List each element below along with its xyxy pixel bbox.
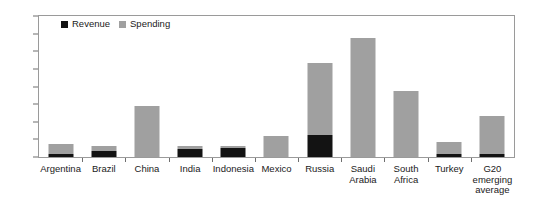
bar-group[interactable] [471,16,514,157]
bar-segment-spending[interactable] [264,136,289,157]
legend-entry-revenue[interactable]: Revenue [61,19,110,29]
x-axis-tick-label: Turkey [435,164,464,175]
bar-group[interactable] [169,16,212,157]
bar-stack[interactable] [91,146,116,157]
x-axis-tick-mark [428,158,429,162]
y-axis-tick-mark [33,104,38,105]
bar-segment-spending[interactable] [480,116,505,153]
x-axis-tick-mark [82,158,83,162]
bar-group[interactable] [82,16,125,157]
bar-segment-spending[interactable] [48,144,73,154]
bar-group[interactable] [428,16,471,157]
x-axis-tick-label: China [135,164,160,175]
legend-label: Revenue [72,19,110,29]
bar-group[interactable] [298,16,341,157]
bar-segment-spending[interactable] [437,142,462,154]
x-axis-tick-mark [384,158,385,162]
x-axis-tick-mark [125,158,126,162]
x-axis-tick-label: Mexico [261,164,291,175]
x-axis-tick-label: Russia [305,164,334,175]
x-axis-tick-label: G20 emerging average [473,164,513,196]
legend-entry-spending[interactable]: Spending [119,19,170,29]
bar-stack[interactable] [221,146,246,157]
bar-stack[interactable] [48,144,73,157]
bar-group[interactable] [341,16,384,157]
bar-segment-revenue[interactable] [48,154,73,157]
bar-segment-revenue[interactable] [178,149,203,157]
bar-group[interactable] [125,16,168,157]
bar-stack[interactable] [134,106,159,157]
x-axis-tick-mark [212,158,213,162]
bar-stack[interactable] [178,146,203,157]
y-axis: 0246810121416 [0,0,38,176]
bar-stack[interactable] [394,91,419,157]
x-axis-tick-mark [298,158,299,162]
bar-segment-spending[interactable] [307,63,332,135]
bar-group[interactable] [384,16,427,157]
x-axis-tick-label: South Africa [394,164,419,185]
bar-segment-revenue[interactable] [437,154,462,157]
legend-swatch-icon [61,21,68,28]
chart-legend: RevenueSpending [61,19,170,29]
x-axis-tick-label: Saudi Arabia [349,164,376,185]
legend-label: Spending [130,19,170,29]
bar-stack[interactable] [307,63,332,157]
y-axis-tick-mark [33,86,38,87]
x-axis: ArgentinaBrazilChinaIndiaIndonesiaMexico… [39,158,514,220]
bar-segment-revenue[interactable] [91,151,116,157]
bar-stack[interactable] [350,38,375,157]
x-axis-tick-label: India [180,164,201,175]
bar-group[interactable] [212,16,255,157]
y-axis-tick-mark [33,68,38,69]
x-axis-tick-mark [471,158,472,162]
bars-layer [39,16,514,157]
bar-segment-spending[interactable] [350,38,375,157]
x-axis-tick-mark [169,158,170,162]
bar-stack[interactable] [437,142,462,157]
bar-segment-revenue[interactable] [480,154,505,157]
x-axis-tick-mark [255,158,256,162]
y-axis-tick-mark [33,139,38,140]
y-axis-tick-mark [33,16,38,17]
bar-group[interactable] [39,16,82,157]
legend-swatch-icon [119,21,126,28]
y-axis-tick-mark [33,33,38,34]
bar-segment-revenue[interactable] [307,135,332,157]
x-axis-tick-label: Argentina [40,164,81,175]
x-axis-tick-mark [341,158,342,162]
x-axis-tick-label: Brazil [92,164,116,175]
y-axis-tick-mark [33,51,38,52]
y-axis-tick-mark [33,121,38,122]
bar-segment-spending[interactable] [394,91,419,157]
bar-segment-spending[interactable] [134,106,159,157]
y-axis-tick-mark [33,157,38,158]
bar-chart: 0246810121416 ArgentinaBrazilChinaIndiaI… [0,0,537,220]
bar-stack[interactable] [480,116,505,157]
bar-segment-revenue[interactable] [221,148,246,157]
bar-group[interactable] [255,16,298,157]
x-axis-tick-label: Indonesia [213,164,254,175]
bar-stack[interactable] [264,136,289,157]
